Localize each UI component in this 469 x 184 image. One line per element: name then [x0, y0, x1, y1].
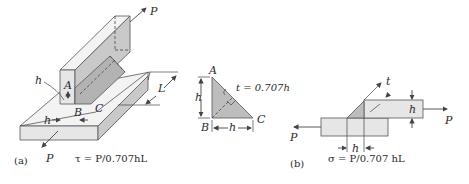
dim-h-left: h — [35, 74, 42, 87]
tri-point-b: B — [200, 121, 209, 134]
panel-b-label: (b) — [290, 158, 304, 169]
dim-h-horizontal: h — [229, 121, 236, 134]
panel-a-label: (a) — [14, 155, 28, 166]
panel-a: P P h A B C h L (a) τ = P/0.707hL — [14, 5, 178, 166]
force-label-left: P — [289, 131, 298, 144]
dim-h-right: h — [409, 103, 416, 116]
lower-plate — [321, 118, 388, 136]
dim-l: L — [157, 82, 165, 95]
tri-point-c: C — [257, 113, 266, 126]
point-a: A — [63, 79, 72, 92]
force-arrow-top — [130, 8, 146, 22]
weld-diagram: P P h A B C h L (a) τ = P/0.707hL h — [0, 0, 469, 184]
dim-h-vertical: h — [195, 91, 202, 104]
triangle-detail: h h A B C t = 0.707h — [195, 64, 290, 134]
force-label-top: P — [149, 5, 158, 18]
force-label-bottom: P — [45, 152, 54, 165]
point-b: B — [73, 106, 82, 119]
shear-stress-equation: τ = P/0.707hL — [75, 153, 147, 164]
tri-point-a: A — [208, 64, 217, 77]
normal-stress-equation: σ = P/0.707 hL — [328, 153, 405, 164]
fillet-weld-left — [347, 101, 364, 118]
panel-b: t h P P h σ = P/0.707 hL (b) — [289, 75, 453, 169]
dim-h-bottom: h — [44, 114, 51, 127]
point-c: C — [95, 102, 104, 115]
throat-formula: t = 0.707h — [236, 82, 290, 93]
dim-t: t — [386, 75, 391, 88]
force-label-right: P — [444, 114, 453, 127]
